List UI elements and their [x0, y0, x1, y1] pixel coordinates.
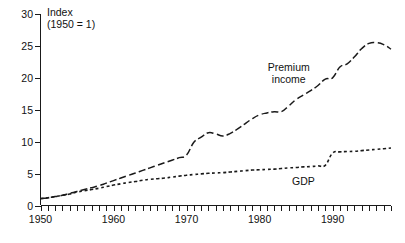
y-tick-label: 5 — [27, 168, 33, 180]
y-tick-label-group: 051015202530 — [21, 8, 33, 212]
y-tick-group — [35, 15, 41, 207]
y-tick-label: 15 — [21, 104, 33, 116]
premium-income-label-line1: Premium — [268, 61, 310, 73]
y-axis-caption-line1: Index — [47, 6, 73, 18]
x-tick-label: 1960 — [102, 213, 126, 225]
chart-figure: 051015202530 19501960197019801990 Index … — [0, 0, 405, 243]
x-tick-label: 1950 — [29, 213, 53, 225]
y-axis-caption-line2: (1950 = 1) — [47, 18, 95, 30]
gdp-label: GDP — [292, 175, 315, 187]
x-minor-tick-group — [42, 206, 392, 212]
x-tick-label: 1980 — [248, 213, 272, 225]
y-tick-label: 25 — [21, 40, 33, 52]
series-group — [41, 42, 392, 198]
y-tick-label: 0 — [27, 200, 33, 212]
y-tick-label: 30 — [21, 8, 33, 20]
y-tick-label: 20 — [21, 72, 33, 84]
series-line-gdp — [41, 148, 392, 199]
x-axis-group: 19501960197019801990 — [29, 206, 392, 226]
chart-canvas: 051015202530 19501960197019801990 Index … — [0, 0, 405, 243]
premium-income-label-line2: income — [272, 73, 306, 85]
axis-caption-group: Index (1950 = 1) — [47, 6, 95, 30]
x-tick-label: 1990 — [321, 213, 345, 225]
x-tick-label-group: 19501960197019801990 — [29, 213, 345, 225]
x-tick-label: 1970 — [175, 213, 199, 225]
y-axis-group: 051015202530 — [21, 8, 40, 212]
series-line-premium-income — [41, 42, 392, 198]
y-tick-label: 10 — [21, 136, 33, 148]
